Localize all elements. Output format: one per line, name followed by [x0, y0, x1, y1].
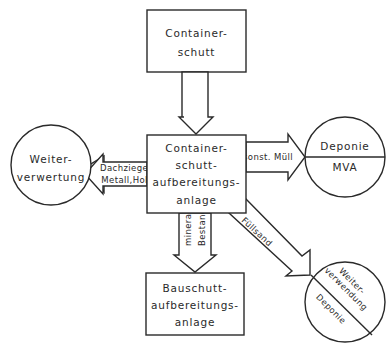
plant-label-line4: anlage	[176, 194, 216, 206]
edge-label-reuse-line2: Metall,Holz	[101, 175, 152, 185]
plant-box: Container- schutt- aufbereitungs- anlage	[147, 135, 246, 213]
rubble-plant-box: Bauschutt- aufbereitungs- anlage	[146, 273, 244, 335]
reuse-circle: Weiter- verwertung	[11, 125, 91, 205]
rubble-label-line3: anlage	[175, 316, 215, 328]
reuse-label-line2: verwertung	[17, 171, 85, 183]
arrow-plant-to-reuse: Dachziegel, Metall,Holz	[85, 154, 154, 194]
landfill-label-top: Deponie	[320, 140, 369, 152]
arrow-plant-to-landfill: sonst. Müll	[243, 134, 305, 180]
reuse-label-line1: Weiter-	[30, 153, 73, 165]
reuse-diag-circle: Weiter- verwendung Deponie	[305, 262, 385, 342]
plant-label-line3: aufbereitungs-	[153, 176, 241, 188]
edge-label-landfill: sonst. Müll	[243, 152, 293, 162]
plant-label-line2: schutt-	[175, 159, 217, 171]
source-label-line1: Container-	[165, 27, 227, 39]
rubble-label-line2: aufbereitungs-	[151, 299, 239, 311]
flow-diagram: Container- schutt Dachziegel, Metall,Hol…	[0, 0, 387, 345]
plant-label-line1: Container-	[165, 142, 227, 154]
landfill-circle: Deponie MVA	[305, 117, 385, 197]
edge-label-reuse-line1: Dachziegel,	[100, 163, 154, 173]
arrow-source-to-plant	[179, 72, 213, 134]
source-label-line2: schutt	[178, 46, 216, 58]
source-box: Container- schutt	[147, 10, 246, 72]
landfill-label-bottom: MVA	[332, 161, 357, 173]
rubble-label-line1: Bauschutt-	[163, 282, 228, 294]
